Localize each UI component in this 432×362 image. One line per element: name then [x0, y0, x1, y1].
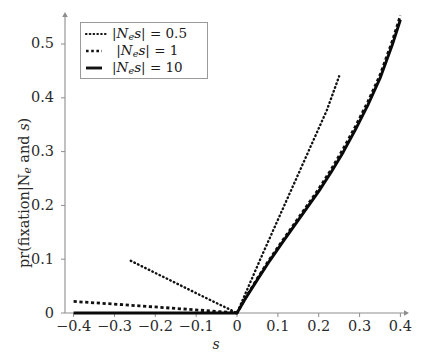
y-axis-title-post: and — [16, 131, 32, 167]
legend-label-prefix: |N — [112, 59, 128, 75]
y-axis-title-sub: e — [21, 167, 33, 173]
legend-item: |Nes| = 1 — [85, 42, 203, 59]
x-axis-arrow — [404, 310, 409, 316]
legend-label-value: = 0.5 — [150, 25, 187, 41]
y-axis-title: pr(fixation|Ne and s) — [16, 118, 33, 268]
y-axis-title-close: ) — [16, 118, 32, 124]
legend-item: |Nes| = 10 — [85, 59, 203, 76]
dotted-line-swatch-icon — [85, 28, 107, 40]
legend-label: |Nes| = 1 — [112, 42, 178, 59]
y-tick-label: 0 — [18, 305, 54, 321]
y-axis-title-pre: pr(fixation|N — [16, 174, 32, 268]
legend-label-prefix: |N — [112, 25, 128, 41]
y-tick-marks — [61, 44, 65, 313]
legend-label-value: = 10 — [150, 59, 183, 75]
x-axis-title: s — [0, 336, 432, 352]
legend-label-mid: s| — [134, 25, 145, 41]
series-line — [131, 76, 339, 313]
legend-item: |Nes| = 0.5 — [85, 25, 203, 42]
dashed-line-swatch-icon — [85, 45, 107, 57]
legend-label: |Nes| = 10 — [112, 59, 183, 76]
solid-line-swatch-icon — [85, 62, 107, 74]
y-tick-label: 0.4 — [10, 89, 54, 105]
y-axis-title-s: s — [16, 123, 32, 130]
legend-box: |Nes| = 0.5 |Nes| = 1 |Nes| = 10 — [80, 22, 208, 79]
legend-label-prefix: |N — [116, 42, 132, 58]
y-tick-label: 0.5 — [10, 35, 54, 51]
legend-label-mid: s| — [138, 42, 149, 58]
chart-canvas — [0, 0, 432, 362]
figure-container: 0 0.1 0.2 0.3 0.4 0.5 −0.4 −0.3 −0.2 −0.… — [0, 0, 432, 362]
x-tick-label: 0.4 — [376, 318, 424, 334]
legend-label-value: = 1 — [154, 42, 178, 58]
legend-label: |Nes| = 0.5 — [112, 25, 187, 42]
legend-label-mid: s| — [134, 59, 145, 75]
x-axis-title-text: s — [212, 336, 219, 352]
y-axis-arrow — [62, 12, 68, 17]
